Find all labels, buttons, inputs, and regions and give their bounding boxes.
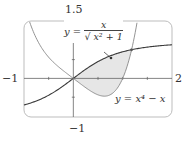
sigmoid-equation-label: y = x √ x² + 1 xyxy=(64,19,123,43)
shaded-region xyxy=(73,50,131,96)
y-top-tick-label: 1.5 xyxy=(65,4,83,15)
arrow-head-dot xyxy=(110,57,113,60)
quartic-equation-label: y = x⁴ − x xyxy=(115,93,165,104)
eq1-numerator: x xyxy=(84,19,122,31)
eq1-lhs: y = xyxy=(64,26,81,37)
eq1-denominator: √ x² + 1 xyxy=(84,31,122,43)
shaded-area xyxy=(73,50,131,96)
x-right-tick-label: 2 xyxy=(175,73,182,84)
intersection-point xyxy=(130,48,133,51)
y-bottom-tick-label: −1 xyxy=(69,123,85,134)
x-left-tick-label: −1 xyxy=(2,73,18,84)
eq1-fraction: x √ x² + 1 xyxy=(84,19,122,43)
